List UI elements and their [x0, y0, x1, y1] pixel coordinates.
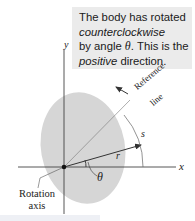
- bottom-strip: [0, 215, 100, 221]
- radius-label: r: [116, 150, 120, 161]
- rotation-axis-dot: [62, 165, 67, 170]
- reference-rotation-arrow: [116, 87, 128, 94]
- arc-s: [124, 115, 143, 167]
- angle-label: θ: [97, 170, 103, 185]
- arc-length-label: s: [141, 128, 145, 139]
- rotation-axis-label: Rotation axis: [14, 188, 60, 212]
- x-axis-label: x: [179, 160, 184, 172]
- y-axis-label: y: [64, 39, 68, 50]
